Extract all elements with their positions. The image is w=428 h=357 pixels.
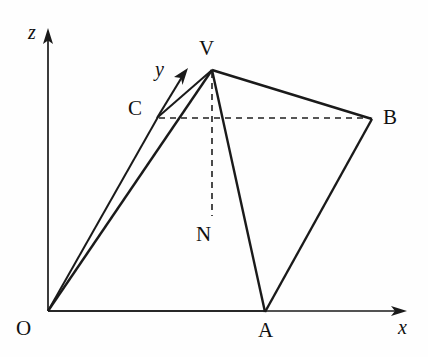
hidden-edges-group [159,72,371,216]
point-label-N: N [196,224,211,245]
edge-A-V [212,70,265,312]
z-axis [43,28,53,311]
edge-B-A [265,119,372,312]
edge-O-C [48,117,158,311]
axis-label-z: z [28,22,36,42]
y-axis-line [157,77,182,118]
geometry-figure: z y x O V C B A N [0,0,428,357]
point-label-B: B [383,107,397,128]
point-label-A: A [258,320,273,341]
y-axis-arrowhead [174,68,188,85]
point-label-C: C [128,98,142,119]
point-label-O: O [16,318,31,339]
point-label-V: V [199,38,214,59]
axis-label-y: y [155,59,164,79]
solid-edges-group [48,70,372,312]
edge-V-B [212,70,372,119]
axis-label-x: x [398,317,407,337]
